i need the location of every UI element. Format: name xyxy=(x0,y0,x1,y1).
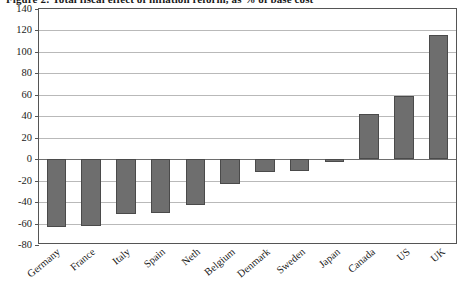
x-axis-labels: GermanyFranceItalySpainNethBelgiumDenmar… xyxy=(38,245,457,295)
bar-slot xyxy=(421,9,456,243)
bar-slot xyxy=(74,9,109,243)
bar[interactable] xyxy=(255,159,274,172)
y-tick-label: 20 xyxy=(0,131,38,142)
x-tick-label: Spain xyxy=(142,246,167,270)
x-label-slot: Sweden xyxy=(282,245,317,295)
y-tick-label: 120 xyxy=(0,24,38,35)
bar-chart: 140120100806040200-20-40-60-80 xyxy=(38,8,457,244)
y-tick-label: 40 xyxy=(0,110,38,121)
bar-slot xyxy=(317,9,352,243)
bar[interactable] xyxy=(47,159,66,227)
bar-slot xyxy=(178,9,213,243)
page-title: Figure 2: Total fiscal effect of inflati… xyxy=(6,0,313,5)
bar-slot xyxy=(352,9,387,243)
x-label-slot: US xyxy=(387,245,422,295)
bar[interactable] xyxy=(429,35,448,159)
y-tick-label: -60 xyxy=(0,217,38,228)
bar[interactable] xyxy=(81,159,100,226)
x-tick-label: Italy xyxy=(111,246,133,267)
x-label-slot: Germany xyxy=(38,245,73,295)
figure-title-strip: Figure 2: Total fiscal effect of inflati… xyxy=(0,0,463,7)
bar-slot xyxy=(39,9,74,243)
y-tick-label: -40 xyxy=(0,196,38,207)
bar[interactable] xyxy=(151,159,170,213)
bar[interactable] xyxy=(325,159,344,162)
bar-slot xyxy=(109,9,144,243)
y-tick-label: 100 xyxy=(0,45,38,56)
x-label-slot: Spain xyxy=(143,245,178,295)
x-label-slot: France xyxy=(73,245,108,295)
bar-slot xyxy=(387,9,422,243)
bar[interactable] xyxy=(394,96,413,159)
y-tick-label: -80 xyxy=(0,239,38,250)
bar[interactable] xyxy=(290,159,309,171)
bar-slot xyxy=(213,9,248,243)
x-tick-label: France xyxy=(68,246,97,273)
x-tick-label: US xyxy=(394,246,411,263)
x-tick-label: UK xyxy=(428,246,447,264)
x-label-slot: UK xyxy=(422,245,457,295)
bar[interactable] xyxy=(359,114,378,159)
x-tick-label: Germany xyxy=(26,246,63,280)
x-label-slot: Italy xyxy=(108,245,143,295)
y-tick-label: -20 xyxy=(0,174,38,185)
bar-slot xyxy=(248,9,283,243)
plot-area xyxy=(38,8,457,244)
bar[interactable] xyxy=(220,159,239,184)
bar-slot xyxy=(282,9,317,243)
bar-series xyxy=(39,9,456,243)
bar[interactable] xyxy=(186,159,205,205)
x-tick-label: Neth xyxy=(179,246,202,268)
y-tick-label: 60 xyxy=(0,88,38,99)
bar[interactable] xyxy=(116,159,135,214)
y-tick-label: 80 xyxy=(0,67,38,78)
x-tick-label: Japan xyxy=(317,246,342,270)
bar-slot xyxy=(143,9,178,243)
y-tick-label: 0 xyxy=(0,153,38,164)
x-label-slot: Japan xyxy=(317,245,352,295)
x-label-slot: Canada xyxy=(352,245,387,295)
y-tick-label: 140 xyxy=(0,3,38,14)
